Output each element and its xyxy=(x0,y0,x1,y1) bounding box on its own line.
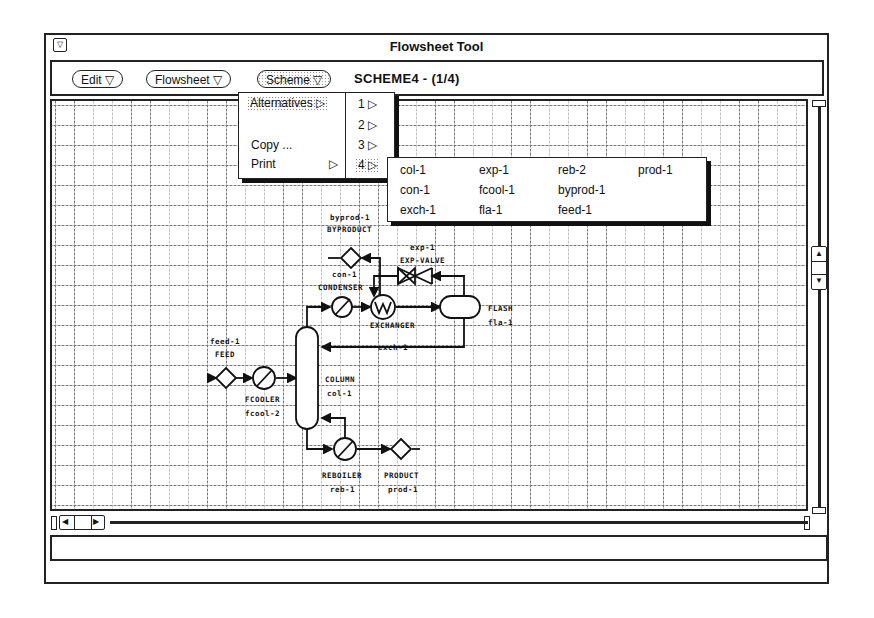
label-fcooler: FCOOLER xyxy=(245,395,280,404)
menu-item-print[interactable]: Print xyxy=(251,157,276,171)
label-exp-valve: EXP-VALVE xyxy=(400,256,445,265)
vertical-scrollbar-top-cable-anchor[interactable] xyxy=(812,100,826,107)
horizontal-scrollbar-elevator[interactable]: ◀ ▶ xyxy=(59,515,105,530)
label-column: COLUMN xyxy=(325,375,355,384)
unit-exp-1[interactable]: exp-1 xyxy=(479,163,509,177)
unit-reb-2[interactable]: reb-2 xyxy=(558,163,586,177)
label-byproduct: BYPRODUCT xyxy=(327,225,372,234)
vertical-scrollbar-elevator[interactable]: ▲ ▼ xyxy=(811,246,827,290)
label-prod-id: prod-1 xyxy=(388,485,418,494)
unit-feed-1[interactable]: feed-1 xyxy=(558,203,592,217)
menu-item-alt-3[interactable]: 3 ▷ xyxy=(358,138,377,152)
scroll-up-icon[interactable]: ▲ xyxy=(812,249,826,259)
label-con-id: con-1 xyxy=(332,270,357,279)
scroll-right-icon[interactable]: ▶ xyxy=(93,517,99,526)
label-condenser: CONDENSER xyxy=(318,283,363,292)
unit-fcool-1[interactable]: fcool-1 xyxy=(479,183,515,197)
scroll-down-icon[interactable]: ▼ xyxy=(812,276,826,286)
label-fcool-id: fcool-2 xyxy=(245,409,280,418)
menu-item-copy[interactable]: Copy ... xyxy=(251,138,292,152)
unit-col-1[interactable]: col-1 xyxy=(400,163,426,177)
label-product: PRODUCT xyxy=(384,471,419,480)
label-exp-id: exp-1 xyxy=(410,243,435,252)
label-col-id: col-1 xyxy=(327,389,352,398)
label-reboiler: REBOILER xyxy=(322,471,362,480)
status-area xyxy=(50,535,828,561)
unit-prod-1[interactable]: prod-1 xyxy=(638,163,673,177)
menu-item-alt-4[interactable]: 4 ▷ xyxy=(355,158,380,172)
flowsheet-diagram xyxy=(0,0,874,618)
unit-byprod-1[interactable]: byprod-1 xyxy=(558,183,605,197)
menu-item-alternatives[interactable]: Alternatives ▷ xyxy=(247,96,328,110)
vertical-scrollbar-bottom-cable-anchor[interactable] xyxy=(812,507,826,514)
vertical-scrollbar-track[interactable] xyxy=(818,104,821,510)
unit-exch-1[interactable]: exch-1 xyxy=(400,203,436,217)
label-exchanger: EXCHANGER xyxy=(370,321,415,330)
scheme-menu: Alternatives ▷ Copy ... Print ▷ xyxy=(238,92,346,179)
label-byprod-id: byprod-1 xyxy=(330,213,370,222)
unit-con-1[interactable]: con-1 xyxy=(400,183,430,197)
label-fla-id: fla-1 xyxy=(488,318,513,327)
label-feed-id: feed-1 xyxy=(210,337,240,346)
label-exch-id: exch-1 xyxy=(378,343,408,352)
menu-item-alt-2[interactable]: 2 ▷ xyxy=(358,118,377,132)
label-feed: FEED xyxy=(215,350,235,359)
horizontal-scrollbar-right-cable-anchor[interactable] xyxy=(804,516,810,530)
label-reb-id: reb-1 xyxy=(330,485,355,494)
unit-fla-1[interactable]: fla-1 xyxy=(479,203,502,217)
print-submenu-arrow-icon: ▷ xyxy=(329,157,338,171)
scroll-drag-area-h[interactable] xyxy=(74,515,92,529)
horizontal-scrollbar-track[interactable] xyxy=(110,521,808,524)
label-flash: FLASH xyxy=(488,304,513,313)
menu-item-alt-1[interactable]: 1 ▷ xyxy=(358,97,377,111)
scroll-drag-area[interactable] xyxy=(812,261,826,275)
units-submenu: col-1 con-1 exch-1 exp-1 fcool-1 fla-1 r… xyxy=(387,157,707,222)
horizontal-scrollbar-left-cable-anchor[interactable] xyxy=(51,516,57,530)
scroll-left-icon[interactable]: ◀ xyxy=(62,517,68,526)
